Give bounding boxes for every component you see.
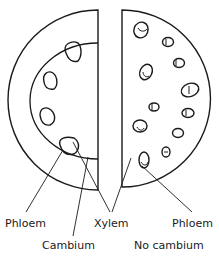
label-xylem: Xylem	[94, 218, 129, 230]
scattered-bundle	[139, 152, 149, 168]
scattered-bundle	[179, 81, 200, 99]
scattered-bundle	[163, 38, 174, 47]
right-stem-outline	[122, 10, 210, 187]
bundle-3	[40, 108, 55, 125]
scattered-bundle	[137, 62, 155, 82]
scattered-bundle	[173, 129, 184, 138]
label-phloem-right: Phloem	[172, 218, 213, 230]
leader-xylem-left	[73, 142, 110, 212]
label-phloem-left: Phloem	[5, 218, 46, 230]
bundle-4	[60, 137, 79, 154]
leader-phloem-right	[142, 166, 192, 212]
scattered-bundle	[174, 59, 185, 68]
scattered-bundle	[182, 109, 194, 118]
cambium-ring	[30, 43, 98, 159]
scattered-bundle	[149, 103, 159, 111]
label-no-cambium: No cambium	[134, 240, 204, 252]
label-cambium: Cambium	[42, 240, 95, 252]
scattered-bundle	[132, 20, 151, 40]
bundle-2	[44, 72, 57, 89]
leader-cambium	[73, 157, 88, 236]
